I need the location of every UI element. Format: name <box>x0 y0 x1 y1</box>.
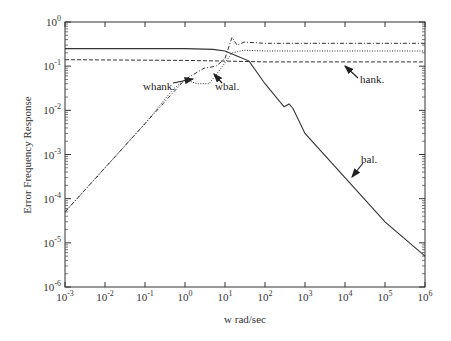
annotation-wbal: wbal. <box>215 80 239 92</box>
tick-label: 10-3 <box>56 289 74 303</box>
tick-label: 102 <box>258 289 273 303</box>
bal-arrow <box>352 163 363 177</box>
tick-label: 106 <box>418 289 433 303</box>
x-axis-label: w rad/sec <box>224 313 266 325</box>
tick-label: 10-5 <box>43 235 61 249</box>
whank-arrow <box>173 79 193 83</box>
y-axis-label: Error Frequency Response <box>21 96 33 213</box>
tick-label: 103 <box>298 289 313 303</box>
series-lines <box>65 37 425 256</box>
tick-label: 10-4 <box>43 191 61 205</box>
error-frequency-response-chart: 10-310-210-110010110210310410510610-610-… <box>0 0 451 341</box>
annotation-bal: bal. <box>361 153 377 165</box>
annotation-hank: hank. <box>360 73 384 85</box>
tick-label: 104 <box>338 289 353 303</box>
annotation-whank: whank. <box>143 80 175 92</box>
tick-label: 10-2 <box>43 102 61 116</box>
tick-label: 105 <box>378 289 393 303</box>
series-whank <box>65 37 425 212</box>
tick-label: 10-2 <box>96 289 114 303</box>
hank-arrow <box>345 66 358 78</box>
tick-label: 10-3 <box>43 147 61 161</box>
series-hank <box>65 60 425 62</box>
tick-label: 100 <box>178 289 193 303</box>
tick-label: 100 <box>46 14 61 28</box>
tick-label: 10-1 <box>136 289 154 303</box>
tick-label: 101 <box>218 289 233 303</box>
tick-label: 10-1 <box>43 58 61 72</box>
